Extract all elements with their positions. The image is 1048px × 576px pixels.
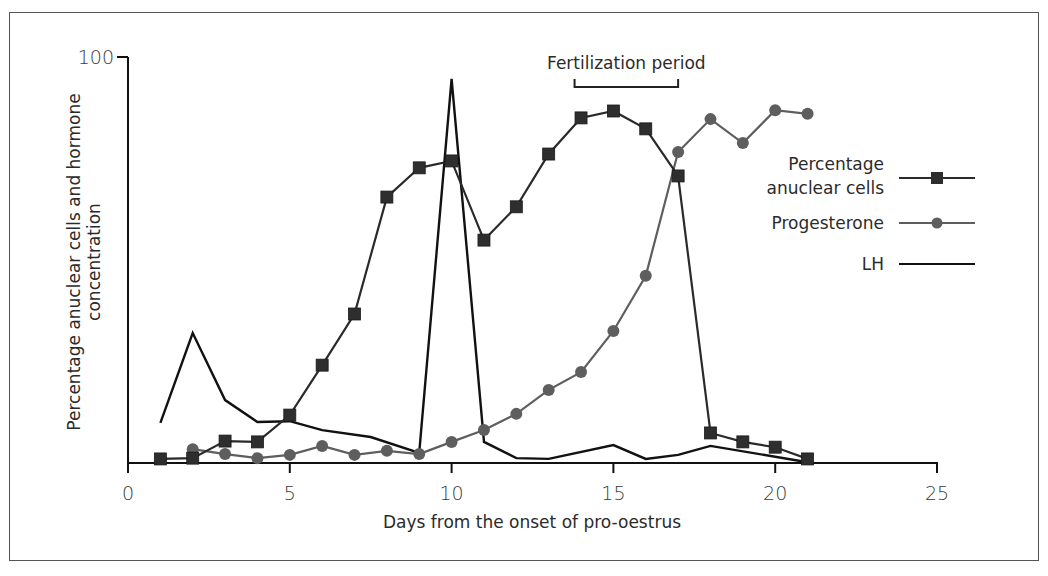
- circle-marker: [769, 104, 781, 116]
- square-marker: [446, 155, 458, 167]
- legend: Percentageanuclear cellsProgesteroneLH: [767, 154, 975, 274]
- circle-marker: [607, 325, 619, 337]
- circle-marker: [446, 436, 458, 448]
- legend-item-lh: LH: [862, 254, 975, 274]
- square-marker: [381, 191, 393, 203]
- circle-marker: [640, 270, 652, 282]
- circle-marker: [349, 449, 361, 461]
- square-marker: [640, 123, 652, 135]
- square-marker: [284, 409, 296, 421]
- fertilization-bracket: [575, 79, 679, 87]
- legend-circle-marker: [932, 218, 943, 229]
- series-layer: [154, 79, 813, 465]
- square-marker: [802, 453, 814, 465]
- series-lh: [160, 79, 807, 462]
- circle-marker: [316, 440, 328, 452]
- series-percentage-anuclear-cells: [154, 105, 813, 465]
- x-tick-label: 20: [763, 482, 787, 504]
- square-marker: [607, 105, 619, 117]
- square-marker: [543, 148, 555, 160]
- y-axis-title-line: Percentage anuclear cells and hormone: [64, 93, 84, 430]
- legend-item-percentage-anuclear-cells: Percentageanuclear cells: [767, 154, 975, 198]
- y-axis-title-line: concentration: [84, 203, 104, 321]
- square-marker: [672, 170, 684, 182]
- square-marker: [316, 359, 328, 371]
- circle-marker: [802, 108, 814, 120]
- square-marker: [510, 201, 522, 213]
- circle-marker: [413, 448, 425, 460]
- square-marker: [154, 453, 166, 465]
- y-axis-title: Percentage anuclear cells and hormonecon…: [64, 93, 104, 430]
- series-progesterone: [187, 104, 814, 464]
- circle-marker: [737, 137, 749, 149]
- square-marker: [349, 308, 361, 320]
- circle-marker: [672, 146, 684, 158]
- legend-label: Percentage: [788, 154, 884, 174]
- series-line: [160, 111, 807, 459]
- circle-marker: [478, 424, 490, 436]
- square-marker: [575, 112, 587, 124]
- circle-marker: [381, 445, 393, 457]
- circle-marker: [575, 366, 587, 378]
- square-marker: [187, 452, 199, 464]
- legend-item-progesterone: Progesterone: [772, 213, 975, 233]
- square-marker: [769, 441, 781, 453]
- x-tick-label: 25: [925, 482, 949, 504]
- circle-marker: [543, 384, 555, 396]
- circle-marker: [510, 408, 522, 420]
- circle-marker: [251, 452, 263, 464]
- x-tick-label: 0: [122, 482, 134, 504]
- legend-square-marker: [931, 172, 943, 184]
- x-tick-label: 10: [440, 482, 464, 504]
- series-line: [193, 110, 808, 458]
- legend-label: Progesterone: [772, 213, 884, 233]
- fertilization-period-label: Fertilization period: [547, 53, 706, 73]
- circle-marker: [704, 113, 716, 125]
- series-line: [160, 79, 807, 462]
- x-tick-label: 5: [284, 482, 296, 504]
- circle-marker: [284, 449, 296, 461]
- square-marker: [478, 234, 490, 246]
- square-marker: [413, 162, 425, 174]
- legend-label: anuclear cells: [767, 178, 885, 198]
- circle-marker: [219, 448, 231, 460]
- x-axis-title: Days from the onset of pro-oestrus: [383, 512, 681, 532]
- square-marker: [251, 436, 263, 448]
- square-marker: [704, 427, 716, 439]
- fertilization-annotation: Fertilization period: [547, 53, 706, 87]
- square-marker: [737, 436, 749, 448]
- y-tick-label: 100: [78, 46, 114, 68]
- axes: 0510152025100: [78, 46, 949, 504]
- x-tick-label: 15: [601, 482, 625, 504]
- square-marker: [219, 435, 231, 447]
- line-chart: 0510152025100 Fertilization period Perce…: [0, 0, 1048, 576]
- legend-label: LH: [862, 254, 884, 274]
